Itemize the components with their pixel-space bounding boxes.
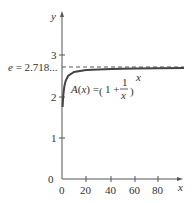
y-tick-3: 3	[51, 49, 57, 61]
asymptote-label: e = 2.718...	[8, 61, 58, 73]
x-tick-20: 20	[80, 184, 92, 196]
chart: y x 0 1 2 3 0 20 40 60 80 e = 2.718... A…	[0, 0, 194, 203]
svg-text:): )	[130, 85, 134, 98]
y-tick-2: 2	[51, 91, 57, 103]
svg-text:x: x	[135, 71, 141, 83]
svg-text:x: x	[120, 89, 126, 101]
svg-text:(: (	[99, 85, 103, 98]
y-tick-1: 1	[51, 132, 57, 144]
y-tick-0: 0	[48, 173, 54, 185]
y-axis-label: y	[50, 10, 56, 22]
y-axis-arrow-icon	[60, 11, 64, 17]
x-tick-60: 60	[129, 184, 141, 196]
x-tick-40: 40	[105, 184, 117, 196]
svg-text:A(x) =: A(x) =	[70, 83, 99, 96]
x-tick-80: 80	[152, 184, 164, 196]
x-axis-label: x	[177, 181, 183, 193]
curve-label: A(x) = ( 1 + 1 x ) x	[70, 71, 141, 101]
svg-text:1: 1	[122, 76, 128, 88]
x-tick-0: 0	[59, 184, 65, 196]
svg-text:1 +: 1 +	[105, 83, 119, 95]
